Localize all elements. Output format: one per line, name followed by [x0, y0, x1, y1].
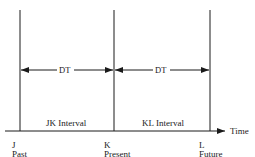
point-sublabel-k: Present [104, 149, 131, 157]
point-sublabel-l: Future [199, 149, 223, 157]
dt-label-kl: DT [153, 65, 168, 75]
interval-label-jk: JK Interval [46, 118, 86, 128]
dt-label-jk: DT [57, 65, 72, 75]
axis-label-time: Time [230, 126, 249, 136]
timeline-diagram [0, 0, 255, 157]
interval-label-kl: KL Interval [142, 118, 184, 128]
point-sublabel-j: Past [12, 149, 27, 157]
